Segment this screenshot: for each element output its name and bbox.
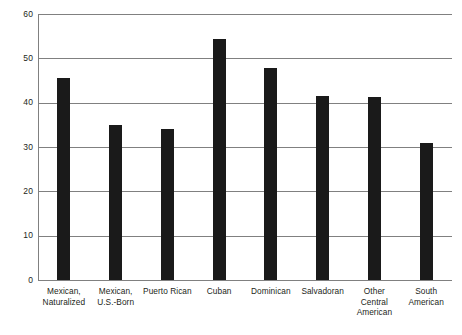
bar [57,78,70,280]
gridline-30 [38,147,452,148]
bar [213,39,226,280]
gridline-0 [38,280,452,281]
plot-area [38,14,452,280]
gridline-10 [38,236,452,237]
y-tick-label-40: 40 [3,98,33,107]
bar [161,129,174,280]
y-axis-tick-labels: 6050403020100 [0,0,33,335]
y-tick-label-60: 60 [3,10,33,19]
gridline-20 [38,191,452,192]
x-axis-category-labels: Mexican, NaturalizedMexican, U.S.-BornPu… [38,286,452,335]
gridline-60 [38,14,452,15]
y-tick-label-10: 10 [3,231,33,240]
gridline-40 [38,103,452,104]
y-tick-label-30: 30 [3,143,33,152]
bar [109,125,122,280]
bar-chart: 6050403020100 Mexican, NaturalizedMexica… [0,0,462,335]
y-tick-label-20: 20 [3,187,33,196]
bar [316,96,329,280]
y-tick-label-50: 50 [3,54,33,63]
bar [264,68,277,280]
gridline-50 [38,58,452,59]
bar [368,97,381,280]
x-axis-label: South American [394,286,458,307]
footer-caption [12,329,452,335]
y-tick-label-0: 0 [3,276,33,285]
bar [420,143,433,280]
